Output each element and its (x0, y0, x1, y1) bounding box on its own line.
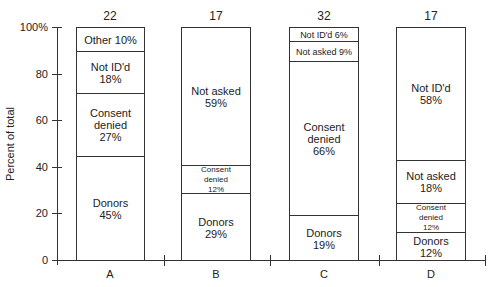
segment-other: Other 10% (77, 28, 144, 51)
bar-total-d: 17 (396, 9, 466, 23)
x-category-c: C (289, 268, 359, 280)
bar-total-c: 32 (289, 9, 359, 23)
y-tick (52, 260, 62, 261)
y-tick-label: 40 (0, 161, 48, 173)
x-tick (379, 255, 380, 266)
segment-not-idd: Not ID'd 6% (290, 28, 358, 41)
bar-d: Not ID'd 58% Not asked 18% Consent denie… (396, 27, 466, 261)
y-axis-label: Percent of total (4, 89, 18, 199)
segment-not-asked: Not asked 18% (397, 160, 465, 203)
x-category-b: B (181, 268, 251, 280)
y-tick (52, 120, 62, 121)
x-tick (164, 255, 165, 266)
x-category-a: A (75, 268, 145, 280)
y-tick (52, 27, 62, 28)
segment-not-idd: Not ID'd 58% (397, 28, 465, 160)
bar-a: Other 10% Not ID'd 18% Consent denied 27… (76, 27, 145, 261)
y-axis (57, 27, 58, 265)
segment-donors: Donors 29% (182, 193, 250, 261)
segment-consent-denied: Consent denied 66% (290, 61, 358, 215)
segment-donors: Donors 45% (77, 156, 144, 261)
segment-not-idd: Not ID'd 18% (77, 51, 144, 93)
segment-consent-denied: Consent denied 12% (182, 165, 250, 193)
segment-consent-denied: Consent denied 27% (77, 93, 144, 156)
bar-c: Not ID'd 6% Not asked 9% Consent denied … (289, 27, 359, 261)
segment-not-asked: Not asked 59% (182, 28, 250, 165)
y-tick (52, 167, 62, 168)
y-tick (52, 213, 62, 214)
x-tick (270, 255, 271, 266)
y-tick-label: 0 (0, 254, 48, 266)
segment-consent-denied: Consent denied 12% (397, 203, 465, 232)
y-tick (52, 74, 62, 75)
bar-b: Not asked 59% Consent denied 12% Donors … (181, 27, 251, 261)
bar-total-a: 22 (75, 9, 145, 23)
y-tick-label: 100% (0, 21, 48, 33)
segment-donors: Donors 19% (290, 215, 358, 261)
segment-donors: Donors 12% (397, 232, 465, 261)
y-tick-label: 20 (0, 207, 48, 219)
y-tick-label: 80 (0, 68, 48, 80)
y-tick-label: 60 (0, 114, 48, 126)
bar-total-b: 17 (181, 9, 251, 23)
x-tick (485, 255, 486, 266)
x-category-d: D (396, 268, 466, 280)
segment-not-asked: Not asked 9% (290, 41, 358, 61)
